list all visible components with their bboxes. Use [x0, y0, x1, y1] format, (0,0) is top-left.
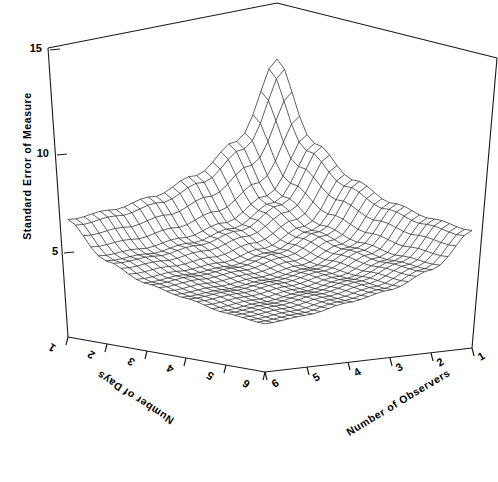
z-tick-label-10: 10: [25, 147, 49, 159]
z-tick-label-5: 5: [34, 245, 58, 257]
z-tick-label-15: 15: [18, 42, 42, 54]
z-axis-line: [48, 48, 68, 337]
z-axis-ticks: [50, 49, 74, 253]
z-axis-title: Standard Error of Measure: [21, 76, 33, 256]
surface-plot-canvas: [0, 0, 498, 482]
wireframe-surface-mesh: [68, 59, 472, 324]
z-tick-15: [50, 49, 60, 50]
right-vertical-edge: [472, 58, 497, 348]
z-tick-10: [57, 154, 67, 155]
z-tick-5: [64, 252, 74, 253]
axis-box: [48, 3, 497, 372]
back-top-edges: [48, 3, 497, 58]
